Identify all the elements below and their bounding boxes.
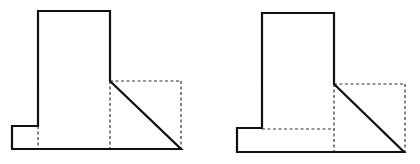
diagram-canvas — [0, 0, 420, 164]
wall-outline — [237, 13, 404, 152]
figure-right — [237, 13, 405, 152]
wall-outline — [12, 11, 181, 149]
figure-left — [12, 11, 181, 149]
